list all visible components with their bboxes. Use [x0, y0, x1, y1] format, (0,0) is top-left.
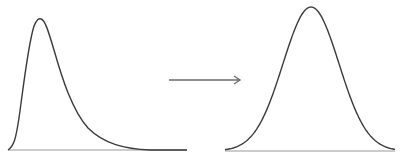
bell-curve	[225, 7, 395, 150]
distribution-transform-diagram	[0, 0, 401, 162]
skewed-distribution	[8, 19, 187, 150]
skewed-curve	[8, 19, 187, 150]
transform-arrow	[169, 76, 240, 84]
normal-distribution	[225, 7, 395, 151]
diagram-canvas	[0, 0, 401, 162]
